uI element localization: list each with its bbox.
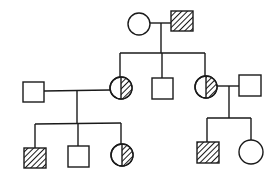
pedigree-diagram [0,0,279,185]
male-affected-III-4 [197,142,219,163]
male-unaffected-II-3 [152,78,173,99]
male-affected-I-2 [171,11,193,31]
female-carrier-II-4 [195,76,217,98]
female-carrier-II-2 [110,77,132,99]
female-carrier-III-3 [111,144,133,166]
male-unaffected-II-1 [23,82,44,102]
male-affected-III-1 [24,148,46,168]
connector-lines [35,23,251,148]
individuals [23,11,263,168]
male-unaffected-II-5 [239,75,261,96]
female-unaffected-III-5 [239,140,263,164]
male-unaffected-III-2 [68,146,89,167]
sibship-line-left [35,123,121,124]
female-unaffected-I-1 [128,13,150,35]
